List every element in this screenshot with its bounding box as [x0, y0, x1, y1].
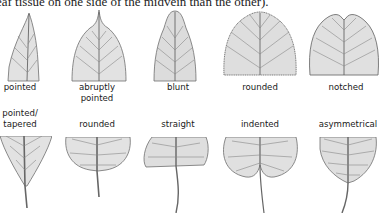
label-base-indented: indented	[241, 119, 279, 130]
label-base-pointed-tapered: pointed/ tapered	[2, 108, 38, 129]
label-text: straight	[161, 119, 194, 129]
leaf-tip-rounded-illustration	[222, 10, 298, 76]
label-base-straight: straight	[161, 119, 194, 130]
label-text-line1: abruptly	[79, 82, 115, 93]
label-text: pointed	[4, 82, 37, 92]
label-tip-pointed: pointed	[4, 82, 37, 93]
label-text-line2: pointed	[79, 93, 115, 104]
label-tip-notched: notched	[329, 82, 364, 93]
leaf-base-indented-illustration	[222, 137, 298, 213]
caption-text: eaf tissue on one side of the midvein th…	[0, 0, 269, 10]
label-base-asymmetrical: asymmetrical	[319, 119, 378, 130]
leaf-base-asymmetrical-illustration	[318, 137, 378, 213]
leaf-base-pointed-tapered-illustration	[0, 136, 52, 212]
label-text: indented	[241, 119, 279, 129]
leaf-base-rounded-illustration	[64, 137, 132, 199]
label-text: notched	[329, 82, 364, 92]
leaf-tip-blunt-illustration	[153, 10, 197, 82]
label-base-rounded: rounded	[79, 119, 115, 130]
leaf-tip-pointed-illustration	[6, 12, 40, 82]
label-tip-rounded: rounded	[242, 82, 278, 93]
leaf-tip-abruptly-pointed-illustration	[70, 10, 128, 82]
label-tip-abruptly-pointed: abruptly pointed	[79, 82, 115, 103]
label-text: asymmetrical	[319, 119, 378, 129]
label-text: rounded	[242, 82, 278, 92]
label-tip-blunt: blunt	[167, 82, 189, 93]
leaf-tip-notched-illustration	[308, 10, 380, 76]
label-text: rounded	[79, 119, 115, 129]
label-text-line2: tapered	[2, 119, 38, 130]
label-text: blunt	[167, 82, 189, 92]
label-text-line1: pointed/	[2, 108, 38, 119]
leaf-base-straight-illustration	[142, 137, 210, 213]
